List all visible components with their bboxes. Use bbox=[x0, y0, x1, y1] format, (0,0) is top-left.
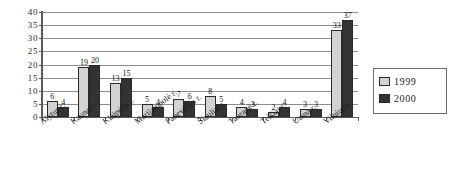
y-axis-tick-label: 10 bbox=[28, 86, 38, 95]
bar-value-label: 5 bbox=[145, 96, 149, 104]
y-axis-tick-mark bbox=[39, 78, 42, 79]
y-axis-tick-mark bbox=[39, 38, 42, 39]
y-axis-tick-mark bbox=[39, 25, 42, 26]
bar-value-label: 33 bbox=[333, 22, 341, 30]
legend-swatch-2000 bbox=[379, 94, 390, 103]
x-axis-tick-mark bbox=[358, 117, 359, 121]
y-axis-tick-label: 30 bbox=[28, 34, 38, 43]
y-axis-tick-mark bbox=[39, 91, 42, 92]
legend-swatch-1999 bbox=[379, 77, 390, 86]
bar-value-label: 37 bbox=[344, 12, 352, 20]
bar-value-label: 6 bbox=[50, 93, 54, 101]
x-axis-category-labels: Alytus r.Kaunas r.Klaipėda r.Marijampolė… bbox=[42, 119, 358, 183]
y-axis-tick-label: 40 bbox=[28, 8, 38, 17]
y-axis-tick-mark bbox=[39, 65, 42, 66]
legend-item-2000[interactable]: 2000 bbox=[379, 90, 441, 107]
y-axis-tick-mark bbox=[39, 12, 42, 13]
bar-value-label: 13 bbox=[111, 75, 119, 83]
legend-label-2000: 2000 bbox=[394, 94, 416, 104]
y-axis-tick-label: 25 bbox=[28, 47, 38, 56]
y-axis-tick-label: 5 bbox=[33, 99, 38, 108]
bar-chart: 64192013155476854324333337 0510152025303… bbox=[0, 0, 452, 184]
legend-item-1999[interactable]: 1999 bbox=[379, 73, 441, 90]
y-axis-tick-mark bbox=[39, 104, 42, 105]
legend-label-1999: 1999 bbox=[394, 77, 416, 87]
legend: 1999 2000 bbox=[373, 68, 447, 114]
bar-value-label: 15 bbox=[122, 70, 130, 78]
y-axis-tick-label: 20 bbox=[28, 60, 38, 69]
y-axis-tick-mark bbox=[39, 51, 42, 52]
y-axis-tick-label: 35 bbox=[28, 21, 38, 30]
bar-value-label: 19 bbox=[80, 59, 88, 67]
bar-value-label: 8 bbox=[208, 88, 212, 96]
y-axis-tick-label: 15 bbox=[28, 73, 38, 82]
bar-value-label: 20 bbox=[91, 57, 99, 65]
